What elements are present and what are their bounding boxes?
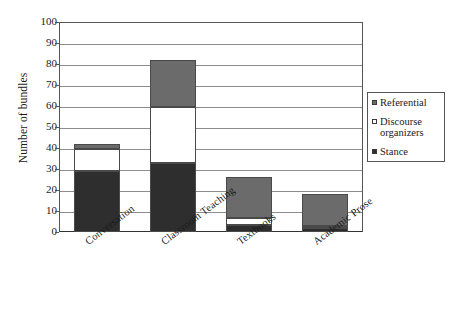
bar-chart-figure: Number of bundles 0102030405060708090100…: [0, 0, 449, 325]
legend-swatch-icon: [372, 100, 377, 105]
legend-label: Discourse organizers: [380, 116, 441, 139]
x-tick-label-conversation: Conversation: [83, 203, 136, 247]
x-tick-label-academic-prose: Academic Prose: [311, 195, 375, 247]
legend-item-discourse-organizers[interactable]: Discourse organizers: [372, 116, 441, 139]
chart-legend: ReferentialDiscourse organizersStance: [367, 92, 445, 162]
x-axis-tick-labels: ConversationClassroom TeachingTextbooksA…: [0, 0, 449, 325]
x-tick-label-textbooks: Textbooks: [235, 211, 278, 247]
legend-swatch-icon: [372, 149, 377, 154]
legend-label: Referential: [380, 97, 441, 109]
x-tick-label-classroom-teaching: Classroom Teaching: [159, 184, 237, 247]
legend-swatch-icon: [372, 119, 377, 124]
legend-item-stance[interactable]: Stance: [372, 146, 441, 158]
legend-item-referential[interactable]: Referential: [372, 97, 441, 109]
legend-label: Stance: [380, 146, 441, 158]
